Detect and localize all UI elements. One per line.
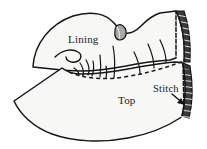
lining-panel-group [33, 11, 176, 71]
sewing-diagram-illustration: Lining Top Stitch [0, 0, 207, 149]
label-top: Top [118, 94, 136, 106]
figure-container: Lining Top Stitch [0, 0, 207, 149]
top-panel-shape [14, 62, 184, 141]
label-stitch: Stitch [153, 83, 179, 94]
tongue-tab-shade [115, 25, 126, 40]
label-lining: Lining [68, 33, 99, 45]
top-panel-group [14, 62, 184, 141]
lining-panel-shape [33, 11, 176, 71]
